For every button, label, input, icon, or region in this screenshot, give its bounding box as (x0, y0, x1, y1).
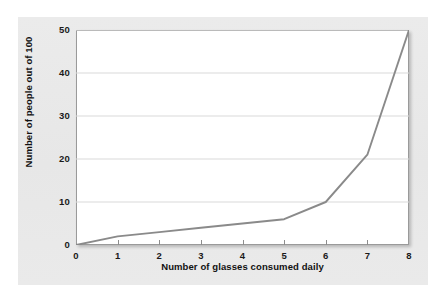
x-axis-tick-label: 4 (235, 250, 251, 261)
y-axis-label: Number of people out of 100 (23, 27, 34, 177)
x-axis-tick-mark (118, 240, 119, 245)
x-axis-tick-mark (284, 240, 285, 245)
x-axis-tick-label: 8 (401, 250, 417, 261)
line-chart-plot (76, 30, 409, 245)
y-axis-tick-label: 0 (44, 239, 70, 250)
x-axis-tick-label: 6 (318, 250, 334, 261)
data-line-group (76, 30, 409, 245)
y-axis-tick-label: 30 (44, 110, 70, 121)
x-axis-tick-mark (326, 240, 327, 245)
x-axis-tick-label: 3 (193, 250, 209, 261)
y-axis-label-wrapper: Number of people out of 100 (23, 27, 43, 177)
x-axis-tick-mark (201, 240, 202, 245)
x-axis-tick-mark (367, 240, 368, 245)
y-axis-tick-label: 20 (44, 153, 70, 164)
x-axis-tick-mark (243, 240, 244, 245)
chart-figure: 01020304050 012345678 Number of glasses … (0, 0, 444, 299)
x-axis-tick-label: 2 (151, 250, 167, 261)
x-axis-tick-mark (159, 240, 160, 245)
y-axis-tick-label: 50 (44, 24, 70, 35)
x-axis-tick-label: 1 (110, 250, 126, 261)
x-axis-label: Number of glasses consumed daily (76, 261, 409, 272)
y-axis-tick-label: 10 (44, 196, 70, 207)
x-axis-tick-label: 7 (359, 250, 375, 261)
x-axis-tick-label: 0 (68, 250, 84, 261)
gridlines-group (76, 30, 409, 202)
data-series-line (76, 30, 409, 245)
x-axis-tick-label: 5 (276, 250, 292, 261)
y-axis-tick-label: 40 (44, 67, 70, 78)
